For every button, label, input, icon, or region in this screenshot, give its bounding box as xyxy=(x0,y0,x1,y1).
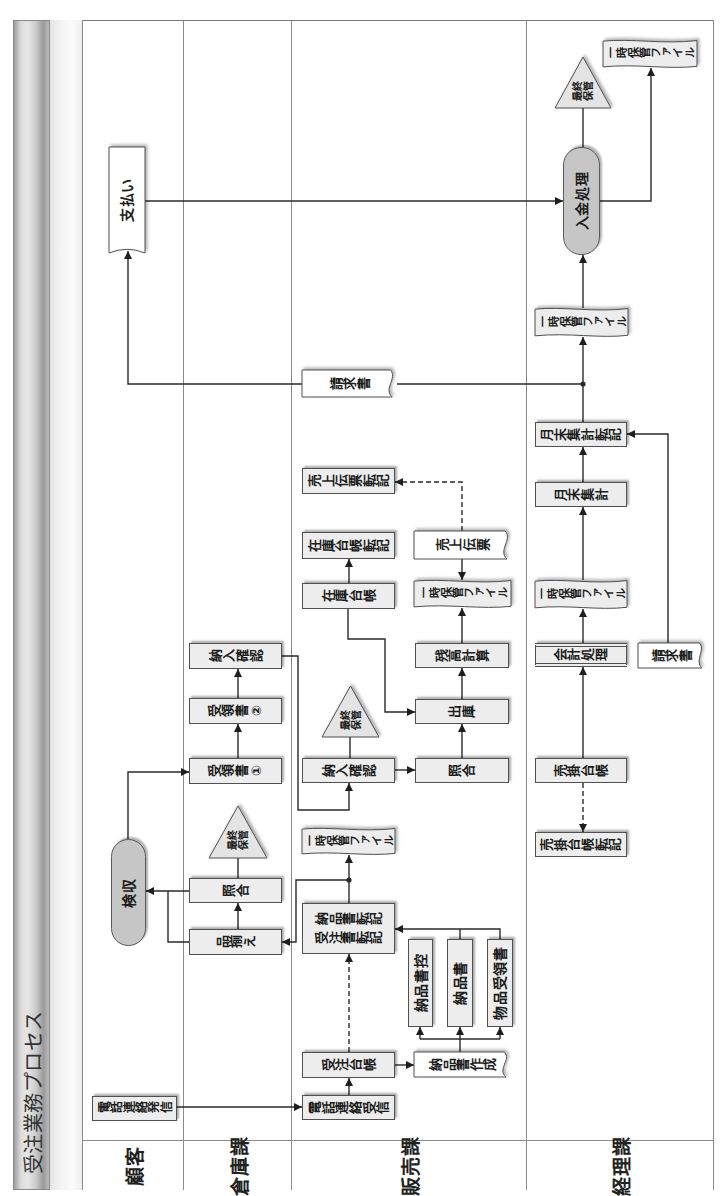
node-sales-temp-file-2: 一時保管ファイル xyxy=(302,828,395,855)
node-order-ledger: 受注台帳 xyxy=(302,1052,395,1078)
node-label: 電話連絡受信 xyxy=(308,1100,390,1116)
node-sales-storage: 最終保管 xyxy=(322,686,379,737)
node-label: 納品書作成 xyxy=(429,1057,497,1073)
node-warehouse-check: 照合 xyxy=(189,878,282,903)
node-label: 物品受領書 xyxy=(492,947,509,1020)
connector-invoice-to-payment xyxy=(128,251,302,384)
node-stock-ledger-posting: 在庫台帳転記 xyxy=(302,532,395,559)
node-sales-check: 照合 xyxy=(415,758,509,783)
node-label: 在庫台帳転記 xyxy=(308,538,390,554)
node-label: 電話連絡発信 xyxy=(97,1101,171,1115)
node-deposit-processing: 入金処理 xyxy=(563,147,600,255)
node-label: 月末集計 xyxy=(554,487,608,503)
node-label: 納品書控 xyxy=(412,954,429,1012)
node-label: 一時保管ファイル xyxy=(605,47,695,60)
node-accounting-storage: 最終保管 xyxy=(555,57,611,108)
node-label: 検収 xyxy=(120,878,137,907)
node-label: 月末集計転記 xyxy=(540,427,622,443)
node-delivery-slip-copy: 納品書控 xyxy=(408,939,433,1027)
node-label: 一時保管ファイル xyxy=(418,587,508,600)
node-label: 入金処理 xyxy=(573,172,590,230)
connector-inspection-to-receipt1 xyxy=(128,772,189,839)
node-label: 受領書② xyxy=(207,703,263,719)
node-label: 在庫台帳 xyxy=(321,588,375,604)
connector-sales-slip-to-posting xyxy=(395,482,462,531)
node-receipt-2: 受領書② xyxy=(189,698,282,724)
node-phone-receive: 電話連絡受信 xyxy=(302,1095,395,1120)
node-sales-slip: 売上伝票 xyxy=(414,531,512,559)
node-warehouse-delivery-confirm: 納入確認 xyxy=(189,643,282,669)
node-accounting-temp-file-2: 一時保管ファイル xyxy=(535,580,627,609)
node-sales-invoice: 請求書 xyxy=(302,370,397,397)
node-label: 残高計算 xyxy=(435,648,489,664)
node-sales-slip-posting: 売上伝票転記 xyxy=(302,468,395,494)
node-label: 納入確認 xyxy=(321,763,375,779)
node-shipping: 出庫 xyxy=(415,699,509,724)
node-sales-delivery-confirm: 納入確認 xyxy=(302,758,395,783)
node-label: 納品書転記受注書転記 xyxy=(315,910,383,948)
node-goods-receipt: 物品受領書 xyxy=(487,939,513,1027)
node-accounting-processing: 会計処理 xyxy=(535,643,627,667)
node-payment: 支払い xyxy=(109,147,145,253)
node-label: 売掛台帳 xyxy=(554,763,608,779)
node-label: 最終保管 xyxy=(340,710,362,730)
node-label: 最終保管 xyxy=(572,81,594,101)
node-sales-temp-file-1: 一時保管ファイル xyxy=(414,580,511,608)
node-ar-ledger: 売掛台帳 xyxy=(535,758,627,783)
node-label: 売掛台帳転記 xyxy=(540,837,622,853)
node-inspection: 検収 xyxy=(111,839,146,946)
node-monthly-total: 月末集計 xyxy=(535,482,627,507)
node-label: 受注台帳 xyxy=(321,1057,375,1073)
node-warehouse-storage: 最終保管 xyxy=(209,806,267,858)
node-delivery-slip: 納品書 xyxy=(447,939,473,1027)
node-receipt-1: 受領書① xyxy=(189,758,282,784)
node-monthly-total-posting: 月末集計転記 xyxy=(535,422,627,447)
node-delivery-slip-creation: 納品書作成 xyxy=(414,1052,511,1077)
node-label: 一時保管ファイル xyxy=(536,588,626,601)
node-phone-send: 電話連絡発信 xyxy=(92,1096,177,1121)
connector-receipt-to-posting xyxy=(395,929,500,939)
node-label: 一時保管ファイル xyxy=(304,835,394,848)
node-label: 売上伝票 xyxy=(436,537,490,553)
node-label: 納品書 xyxy=(452,961,469,1005)
node-ar-ledger-posting: 売掛台帳転記 xyxy=(535,832,627,857)
node-label: 最終保管 xyxy=(227,830,249,850)
connector-picking-to-inspection xyxy=(168,891,189,942)
node-label: 納入確認 xyxy=(208,648,262,664)
node-label: 支払い xyxy=(119,178,136,222)
node-label: 一時保管ファイル xyxy=(537,316,627,329)
node-label: 売上伝票転記 xyxy=(308,473,390,489)
node-stock-ledger: 在庫台帳 xyxy=(302,583,395,609)
node-label: 出庫 xyxy=(448,704,475,720)
node-balance-calc: 残高計算 xyxy=(415,643,509,668)
node-label: 請求書 xyxy=(651,648,692,664)
node-accounting-temp-file-1: 一時保管ファイル xyxy=(535,308,628,337)
node-label: 受領書① xyxy=(207,763,263,779)
node-label: 請求書 xyxy=(329,376,370,392)
node-label: 照合 xyxy=(448,763,475,779)
node-label: 会計処理 xyxy=(554,647,608,663)
node-accounting-invoice: 請求書 xyxy=(638,643,705,668)
node-label: 品揃え xyxy=(215,934,256,950)
connector-invoice-to-monthly-posting xyxy=(627,434,668,643)
node-label: 照合 xyxy=(222,883,249,899)
node-picking: 品揃え xyxy=(189,929,282,955)
node-slip-order-posting: 納品書転記受注書転記 xyxy=(302,903,395,954)
node-accounting-temp-file-top: 一時保管ファイル xyxy=(603,40,697,68)
